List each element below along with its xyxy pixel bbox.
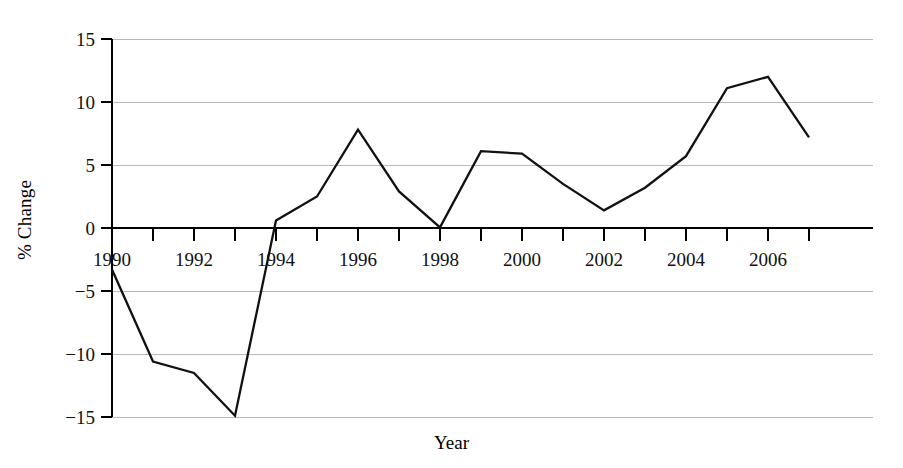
x-tick-label: 1998 [421,249,459,270]
y-tick-label: −5 [75,281,95,302]
y-tick-label: −10 [65,344,95,365]
line-chart-plot: 151050−5−10−15 1990199219941996199820002… [0,0,903,468]
y-axis-tick-labels: 151050−5−10−15 [65,29,95,428]
chart-container: 151050−5−10−15 1990199219941996199820002… [0,0,903,468]
x-axis-ticks [112,228,809,241]
x-axis-title: Year [0,432,903,454]
x-axis-tick-labels: 199019921994199619982000200220042006 [93,249,787,270]
y-tick-label: 5 [86,155,96,176]
x-tick-label: 2006 [749,249,787,270]
x-tick-label: 1990 [93,249,131,270]
x-tick-label: 2004 [667,249,706,270]
x-tick-label: 2000 [503,249,541,270]
data-series [112,77,809,416]
series-line [112,77,809,416]
y-tick-label: −15 [65,407,95,428]
y-tick-label: 15 [76,29,95,50]
x-tick-label: 1994 [257,249,296,270]
x-tick-label: 1996 [339,249,377,270]
x-tick-label: 1992 [175,249,213,270]
axis-lines [112,39,873,417]
x-tick-label: 2002 [585,249,623,270]
y-axis-ticks [101,39,112,417]
y-tick-label: 0 [86,218,96,239]
y-tick-label: 10 [76,92,95,113]
